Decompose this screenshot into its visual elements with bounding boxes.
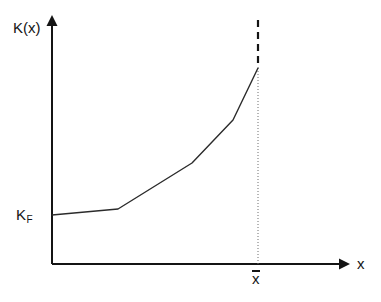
kf-label-subscript: F: [27, 214, 33, 225]
plot-canvas: [0, 0, 381, 302]
x-axis-label: x: [357, 256, 365, 271]
figure-container: K(x) x KF x: [0, 0, 381, 302]
kf-label: KF: [16, 207, 33, 225]
y-axis-label: K(x): [13, 20, 41, 35]
xbar-overbar-glyph: x: [252, 270, 260, 286]
xbar-tick-label: x: [252, 270, 260, 286]
x-axis-arrow-icon: [339, 259, 350, 270]
xbar-label-text: x: [252, 270, 260, 287]
kf-label-base: K: [16, 206, 26, 223]
y-axis-arrow-icon: [47, 15, 58, 26]
kx-curve: [52, 68, 258, 215]
